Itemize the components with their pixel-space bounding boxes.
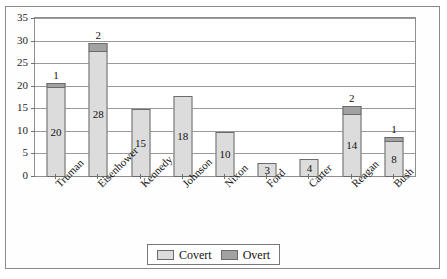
x-axis-tick-labels: TrumanEisenhowerKennedyJohnsonNixonFordC… — [34, 179, 416, 237]
x-axis-label-slot: Eisenhower — [76, 179, 118, 237]
bar-stack[interactable]: 18 — [173, 96, 192, 176]
bar-segment-covert[interactable]: 18 — [173, 96, 192, 177]
bar-value-label-covert: 20 — [48, 126, 65, 137]
plot-area: 1202281518103421418 — [34, 17, 416, 177]
x-axis-label-slot: Johnson — [161, 179, 203, 237]
y-axis-tick-label: 20 — [4, 80, 28, 91]
legend-item[interactable]: Covert — [157, 249, 212, 261]
legend-label: Overt — [243, 249, 270, 261]
bar-slot: 4 — [288, 18, 330, 176]
bar-segment-covert[interactable]: 28 — [89, 51, 108, 177]
y-axis-tick-label: 35 — [4, 12, 28, 23]
x-axis-label-slot: Ford — [245, 179, 287, 237]
bar-slot: 18 — [373, 18, 415, 176]
bar-slot: 214 — [331, 18, 373, 176]
bar-segment-covert[interactable]: 15 — [131, 109, 150, 177]
legend-item[interactable]: Overt — [221, 249, 270, 261]
x-axis-label-slot: Kennedy — [118, 179, 160, 237]
bar-segment-covert[interactable]: 20 — [47, 87, 66, 177]
bar-stack[interactable]: 120 — [47, 83, 66, 176]
y-axis-tick-label: 30 — [4, 35, 28, 46]
bar-stack[interactable]: 228 — [89, 43, 108, 176]
bar-value-label-overt: 2 — [82, 30, 115, 41]
bar-value-label-overt: 1 — [377, 124, 410, 135]
bar-value-label-covert: 14 — [343, 140, 360, 151]
bar-segment-covert[interactable]: 14 — [342, 114, 361, 177]
chart-legend: CovertOvert — [147, 244, 280, 265]
bar-value-label-overt: 2 — [335, 93, 368, 104]
y-axis-tick-label: 25 — [4, 57, 28, 68]
bar-value-label-covert: 8 — [385, 153, 402, 164]
bar-slot: 120 — [35, 18, 77, 176]
bar-slot: 18 — [162, 18, 204, 176]
chart-container: 35302520151050 1202281518103421418 Truma… — [0, 0, 447, 279]
y-axis-tick — [31, 176, 35, 177]
y-axis-tick-label: 15 — [4, 102, 28, 113]
x-axis-label-slot: Carter — [287, 179, 329, 237]
bar-value-label-overt: 1 — [40, 70, 73, 81]
bar-value-label-covert: 10 — [216, 149, 233, 160]
bar-slot: 10 — [204, 18, 246, 176]
bar-series-group: 1202281518103421418 — [35, 18, 415, 176]
y-axis-tick-label: 10 — [4, 125, 28, 136]
legend-swatch-overt — [221, 250, 238, 260]
y-axis-tick-label: 5 — [4, 147, 28, 158]
x-axis-label-slot: Reagan — [330, 179, 372, 237]
bar-stack[interactable]: 10 — [215, 132, 234, 176]
bar-stack[interactable]: 214 — [342, 106, 361, 176]
x-axis-label-slot: Bush — [372, 179, 414, 237]
bar-value-label-covert: 18 — [174, 131, 191, 142]
y-axis-tick-labels: 35302520151050 — [0, 17, 28, 177]
legend-label: Covert — [179, 249, 212, 261]
bar-value-label-covert: 28 — [90, 108, 107, 119]
bar-slot: 228 — [77, 18, 119, 176]
x-axis-label-slot: Nixon — [203, 179, 245, 237]
bar-stack[interactable]: 15 — [131, 109, 150, 176]
y-axis-tick-label: 0 — [4, 170, 28, 181]
bar-slot: 3 — [246, 18, 288, 176]
legend-swatch-covert — [157, 250, 174, 260]
x-axis-label-slot: Truman — [34, 179, 76, 237]
